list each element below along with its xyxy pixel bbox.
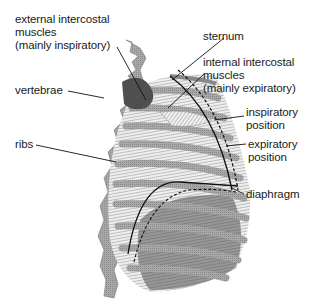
label-diaphragm: diaphragm <box>246 188 299 201</box>
label-sternum: sternum <box>203 30 244 43</box>
label-internal-intercostal-muscles: internal intercostal muscles (mainly exp… <box>203 56 296 95</box>
label-inspiratory-position: inspiratory position <box>246 106 298 132</box>
label-expiratory-position: expiratory position <box>248 138 298 164</box>
label-ribs: ribs <box>15 138 33 151</box>
label-vertebrae: vertebrae <box>15 84 63 97</box>
external-intercostal-muscle <box>122 78 153 110</box>
label-external-intercostal-muscles: external intercostal muscles (mainly ins… <box>15 13 110 52</box>
